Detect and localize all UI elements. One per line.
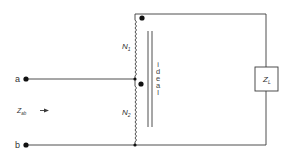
- winding-n1-coil: [135, 20, 137, 76]
- winding-n2-label: N2: [122, 108, 131, 118]
- winding-n1-label: N1: [122, 42, 131, 52]
- polarity-dot-n2: [138, 81, 143, 86]
- input-impedance-label: Zab: [16, 107, 27, 116]
- core-ideal-label: i d e a l: [156, 60, 161, 97]
- terminal-b-label: b: [15, 140, 20, 150]
- junction-dot-bottom: [133, 143, 136, 146]
- junction-dot-tap: [133, 77, 136, 80]
- terminal-a-dot: [23, 76, 28, 81]
- terminal-a-label: a: [15, 74, 20, 84]
- terminal-b-dot: [23, 142, 28, 147]
- autotransformer-diagram: a b N1 N2 i d e a l ZL Zab: [0, 0, 287, 160]
- winding-n2-coil: [135, 86, 137, 142]
- polarity-dot-n1: [139, 15, 144, 20]
- zab-arrow-head: [44, 109, 49, 113]
